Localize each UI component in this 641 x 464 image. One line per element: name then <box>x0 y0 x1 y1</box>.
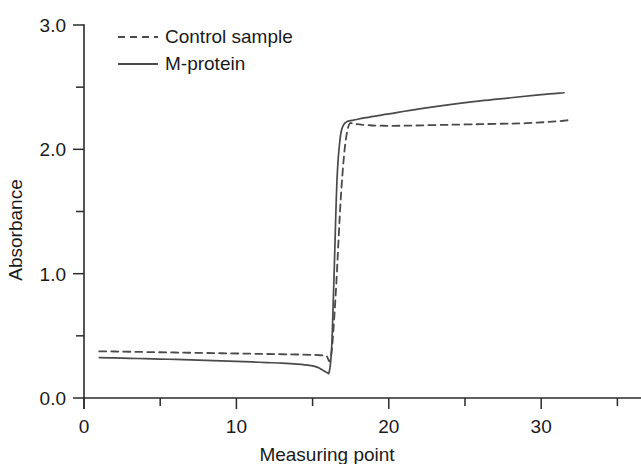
data-series <box>99 93 568 374</box>
legend-label-m-protein: M-protein <box>165 53 245 74</box>
y-tick-label-2: 2.0 <box>40 139 66 160</box>
x-tick-label-0: 0 <box>79 416 90 437</box>
legend-label-control-sample: Control sample <box>165 26 293 47</box>
series-line-control-sample <box>99 120 568 361</box>
line-chart: 0.01.02.03.00102030 Control sampleM-prot… <box>0 0 641 464</box>
chart-figure: 0.01.02.03.00102030 Control sampleM-prot… <box>0 0 641 464</box>
x-tick-label-30: 30 <box>531 416 552 437</box>
x-tick-label-10: 10 <box>226 416 247 437</box>
y-tick-label-0: 0.0 <box>40 388 66 409</box>
series-line-m-protein <box>99 93 564 374</box>
chart-legend: Control sampleM-protein <box>118 26 293 74</box>
axis-tick-labels: 0.01.02.03.00102030 <box>40 15 552 437</box>
y-tick-label-1: 1.0 <box>40 264 66 285</box>
y-tick-label-3: 3.0 <box>40 15 66 36</box>
y-axis-title: Absorbance <box>5 179 26 280</box>
x-axis-title: Measuring point <box>259 444 395 464</box>
x-tick-label-20: 20 <box>378 416 399 437</box>
axes <box>84 25 641 398</box>
